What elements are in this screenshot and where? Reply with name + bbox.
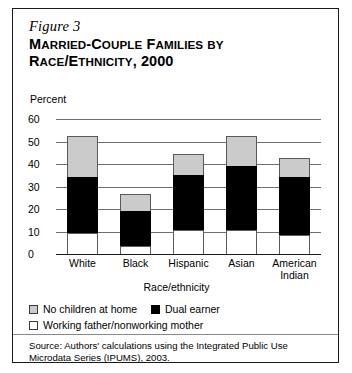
y-axis-tick-label: 40 [28,159,58,169]
bar-black [120,194,151,254]
x-axis-line [56,254,321,255]
bar-segment [226,166,257,231]
bar-segment [279,235,310,255]
x-axis-tick-label: AmericanIndian [255,258,335,281]
legend-swatch-white-icon [29,321,38,330]
y-axis-tick-label: 10 [28,227,58,237]
bar-segment [67,177,98,233]
legend-swatch-gray-icon [29,305,38,314]
bar-segment [120,211,151,247]
y-axis-tick-label: 20 [28,204,58,214]
figure-number: Figure 3 [29,18,80,35]
legend-row-1: No children at home Dual earner [29,301,329,317]
x-axis-title: Race/ethnicity [13,281,340,293]
chart-legend: No children at home Dual earner Working … [29,301,329,333]
y-axis-tick-label: 50 [28,137,58,147]
bar-segment [67,233,98,256]
legend-row-2: Working father/nonworking mother [29,317,329,333]
y-axis-tick-label: 60 [28,114,58,124]
legend-item-no-children-at-home: No children at home [29,303,137,315]
source-divider [13,334,338,335]
y-axis-tick-label: 30 [28,182,58,192]
plot-area [56,119,321,254]
bar-segment [226,230,257,255]
legend-label-no-children-at-home: No children at home [43,303,137,315]
bar-segment [173,175,204,231]
y-axis-title: Percent [30,93,66,105]
bar-segment [173,154,204,177]
bar-segment [226,136,257,168]
bar-hispanic [173,154,204,255]
source-note: Source: Authors' calculations using the … [29,340,321,363]
bar-white [67,136,98,255]
legend-label-working-father-nonworking-mother: Working father/nonworking mother [43,319,203,331]
legend-item-dual-earner: Dual earner [151,303,220,315]
bar-segment [120,194,151,212]
bar-segment [279,177,310,236]
figure-title-line-1: MARRIED-COUPLE FAMILIES BY [29,36,329,53]
legend-item-working-father-nonworking-mother: Working father/nonworking mother [29,319,203,331]
bar-asian [226,136,257,255]
figure-title-line-2: RACE/ETHNICITY, 2000 [29,53,329,70]
bar-segment [173,230,204,255]
figure-title: MARRIED-COUPLE FAMILIES BY RACE/ETHNICIT… [29,36,329,70]
bar-american-indian [279,158,310,254]
bar-segment [279,158,310,178]
legend-label-dual-earner: Dual earner [165,303,220,315]
bar-segment [67,136,98,179]
legend-swatch-black-icon [151,305,160,314]
figure-container: Figure 3 MARRIED-COUPLE FAMILIES BY RACE… [12,8,339,363]
gridline [56,119,321,120]
